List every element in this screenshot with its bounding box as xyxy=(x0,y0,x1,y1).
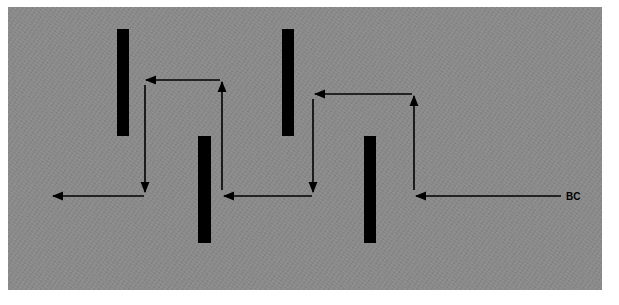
barrier-bar-3 xyxy=(282,29,294,136)
flow-diagram: BC xyxy=(0,0,619,305)
bc-label: BC xyxy=(566,191,580,202)
barrier-bar-2 xyxy=(198,136,211,243)
flow-arrows xyxy=(53,80,561,196)
barrier-bar-1 xyxy=(117,29,129,136)
barriers xyxy=(117,29,376,243)
barrier-bar-4 xyxy=(364,136,376,243)
